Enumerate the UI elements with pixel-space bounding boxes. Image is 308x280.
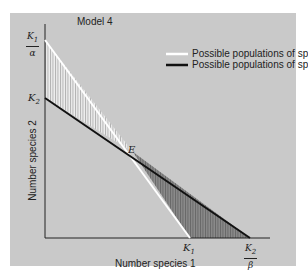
species1-line xyxy=(45,40,190,238)
legend-label-2: Possible populations of species 2 xyxy=(192,59,308,70)
chart-plot xyxy=(0,0,308,280)
x-tick-k2-beta: K2 β xyxy=(244,242,257,271)
x-tick-k1: K1 xyxy=(183,242,195,256)
x-axis-label: Number species 1 xyxy=(115,258,196,269)
chart-title: Model 4 xyxy=(77,16,113,27)
species2-line xyxy=(45,98,250,238)
equilibrium-label: E xyxy=(128,144,135,155)
y-tick-k1-alpha: K1 α xyxy=(26,30,39,59)
y-axis-label: Number species 2 xyxy=(27,120,38,201)
legend-label-1: Possible populations of species 1 xyxy=(192,48,308,59)
y-tick-k2: K2 xyxy=(28,92,40,106)
